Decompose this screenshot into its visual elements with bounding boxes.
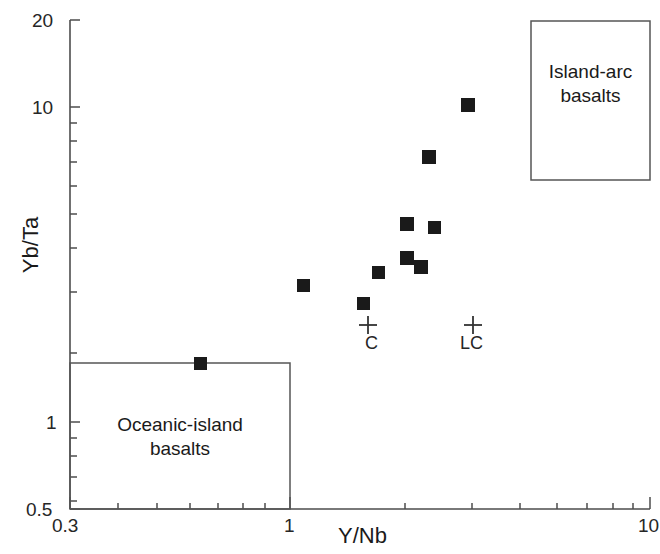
- island-arc-region-label: Island-arc basalts: [531, 60, 650, 109]
- figure-canvas: 20 10 1 0.5 0.3 1 10 Y/Nb Yb/Ta Island-a…: [0, 0, 660, 554]
- y-tick-label-20: 20: [32, 11, 53, 30]
- data-point: [422, 150, 436, 164]
- x-tick-label-10: 10: [638, 516, 659, 535]
- data-point: [357, 297, 370, 310]
- data-point-markers: [194, 98, 475, 370]
- marker-label-c: C: [365, 334, 378, 352]
- y-axis-title: Yb/Ta: [18, 200, 44, 290]
- marker-label-lc: LC: [460, 334, 483, 352]
- y-tick-label-0.5: 0.5: [26, 500, 52, 519]
- x-axis-ticks: [70, 497, 650, 509]
- oceanic-island-region-label: Oceanic-island basalts: [70, 413, 290, 462]
- data-point: [400, 251, 414, 265]
- data-point: [414, 260, 428, 274]
- island-arc-label-line2: basalts: [531, 84, 650, 108]
- x-tick-label-0.3: 0.3: [52, 516, 78, 535]
- reference-plus-markers: [359, 316, 482, 334]
- data-point: [297, 279, 310, 292]
- y-tick-label-10: 10: [32, 98, 53, 117]
- oceanic-island-label-line1: Oceanic-island: [70, 413, 290, 437]
- oceanic-island-label-line2: basalts: [70, 437, 290, 461]
- data-point: [461, 98, 475, 112]
- x-tick-label-1: 1: [284, 516, 295, 535]
- data-point: [428, 221, 441, 234]
- x-axis-title: Y/Nb: [338, 525, 387, 547]
- data-point: [400, 217, 414, 231]
- y-tick-label-1: 1: [46, 413, 57, 432]
- data-point: [372, 266, 385, 279]
- island-arc-label-line1: Island-arc: [531, 60, 650, 84]
- data-point: [194, 357, 207, 370]
